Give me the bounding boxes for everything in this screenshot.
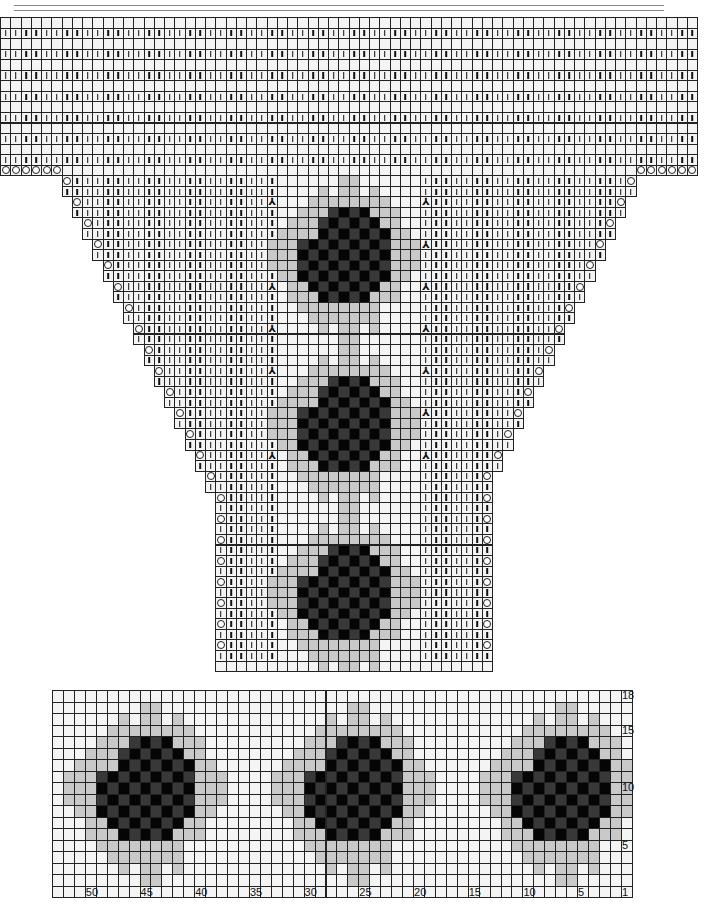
row-number-label: 15 — [622, 725, 634, 736]
row-number-label: 5 — [622, 840, 628, 851]
knit-cell — [564, 312, 575, 324]
knit-cell — [513, 418, 524, 430]
row-number-label: 18 — [622, 690, 634, 701]
column-number-label: 30 — [305, 887, 317, 898]
column-number-label: 50 — [86, 887, 98, 898]
header-rule — [14, 5, 664, 6]
knit-cell — [533, 376, 544, 388]
knit-cell — [584, 270, 595, 282]
column-number-label: 45 — [141, 887, 153, 898]
knit-cell — [615, 207, 626, 219]
column-number-label: 40 — [195, 887, 207, 898]
column-number-label: 20 — [414, 887, 426, 898]
chart-cell — [482, 661, 493, 673]
knit-cell — [605, 228, 616, 240]
knit-cell — [492, 460, 503, 472]
knit-cell — [574, 291, 585, 303]
column-number-label: 25 — [359, 887, 371, 898]
knit-cell — [502, 439, 513, 451]
column-number-label: 5 — [578, 887, 584, 898]
knit-cell — [543, 355, 554, 367]
knit-cell — [554, 334, 565, 346]
knit-cell — [595, 249, 606, 261]
column-number-label: 1 — [622, 887, 628, 898]
column-number-label: 10 — [523, 887, 535, 898]
column-number-label: 15 — [469, 887, 481, 898]
row-number-label: 10 — [622, 782, 634, 793]
column-number-label: 35 — [250, 887, 262, 898]
knit-cell — [625, 186, 636, 198]
knit-cell — [523, 397, 534, 409]
yarn-over-cell — [687, 165, 698, 177]
header-rule — [14, 10, 664, 11]
